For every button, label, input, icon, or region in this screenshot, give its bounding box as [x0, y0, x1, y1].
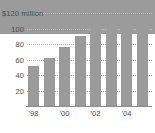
bar-2005	[137, 21, 148, 106]
bar-1999	[44, 58, 55, 106]
bar-chart: $120 million 100 80 60 40 20 '98 '00 '02…	[0, 0, 155, 34]
y-tick-label-80: 80	[15, 40, 24, 49]
x-axis-labels: '98 '00 '02 '04	[27, 109, 152, 125]
bars-group	[27, 13, 152, 106]
y-tick-label-20: 20	[15, 86, 24, 95]
bar-2003	[106, 23, 117, 106]
y-axis-labels: $120 million 100 80 60 40 20	[0, 13, 24, 106]
y-tick-label-60: 60	[15, 55, 24, 64]
x-tick-label-00: '00	[59, 109, 69, 118]
x-tick-label-04: '04	[121, 109, 131, 118]
bar-2004	[121, 21, 132, 106]
y-tick-label-40: 40	[15, 71, 24, 80]
bar-2000	[59, 47, 70, 106]
bar-2001	[75, 36, 86, 106]
bar-1998	[28, 66, 39, 106]
y-tick-label-100: 100	[11, 24, 24, 33]
x-axis-line	[26, 106, 152, 107]
x-tick-label-98: '98	[28, 109, 38, 118]
x-tick-label-02: '02	[90, 109, 100, 118]
bar-2002	[90, 28, 101, 106]
